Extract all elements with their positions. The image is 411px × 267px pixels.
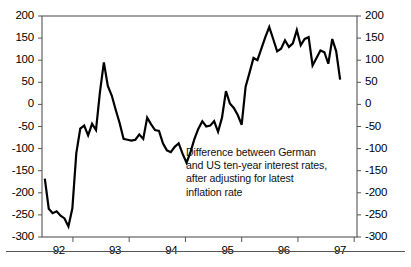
y-axis-left-label-2: 100 xyxy=(0,54,34,66)
y-axis-left-label-10: -300 xyxy=(0,231,34,243)
y-axis-left-label-5: -50 xyxy=(0,121,34,133)
y-axis-right-label-3: 50 xyxy=(365,76,411,88)
y-axis-left-label-6: -100 xyxy=(0,143,34,155)
annotation-line-3: after adjusting for latest xyxy=(186,172,338,185)
y-axis-right-label-4: 0 xyxy=(365,98,411,110)
y-axis-right-label-6: -100 xyxy=(365,143,411,155)
y-axis-left-label-4: 0 xyxy=(0,98,34,110)
y-axis-right-label-0: 200 xyxy=(365,10,411,22)
y-axis-right-label-8: -200 xyxy=(365,187,411,199)
y-axis-right-label-7: -150 xyxy=(365,165,411,177)
annotation-line-1: Difference between German xyxy=(186,146,338,159)
y-axis-left-label-1: 150 xyxy=(0,32,34,44)
chart-annotation: Difference between German and US ten-yea… xyxy=(186,146,338,199)
y-axis-left-label-9: -250 xyxy=(0,209,34,221)
y-axis-right-label-9: -250 xyxy=(365,209,411,221)
annotation-line-2: and US ten-year interest rates, xyxy=(186,159,338,172)
y-axis-right-label-1: 150 xyxy=(365,32,411,44)
y-axis-left-label-0: 200 xyxy=(0,10,34,22)
y-axis-left-label-8: -200 xyxy=(0,187,34,199)
annotation-line-4: inflation rate xyxy=(186,186,338,199)
y-axis-left-label-7: -150 xyxy=(0,165,34,177)
y-axis-right-label-10: -300 xyxy=(365,231,411,243)
y-axis-left-label-3: 50 xyxy=(0,76,34,88)
y-axis-right-label-2: 100 xyxy=(365,54,411,66)
chart-background xyxy=(0,0,411,267)
y-axis-right-label-5: -50 xyxy=(365,121,411,133)
footer-divider xyxy=(6,251,405,252)
interest-rate-differential-chart xyxy=(0,0,411,267)
